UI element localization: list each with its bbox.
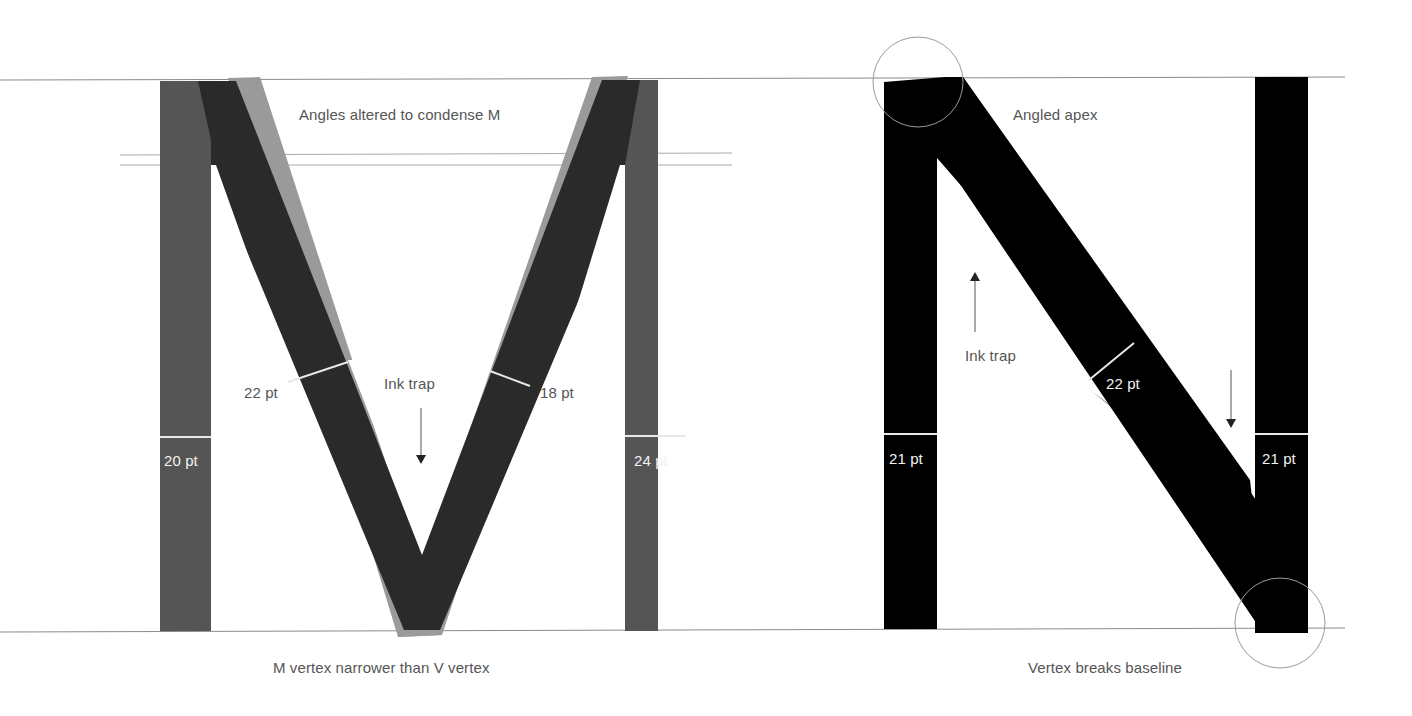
diagram-canvas [0,0,1412,716]
m-right-stem-measure: 24 pt [634,452,668,469]
n-right-stem-measure: 21 pt [1262,450,1296,467]
n-left-stem-measure: 21 pt [889,450,923,467]
n-ink-trap-annotation: Ink trap [965,347,1016,364]
m-right-stem [625,80,658,631]
letter-m [160,76,686,637]
n-vertex-annotation: Vertex breaks baseline [1028,659,1182,676]
n-ink-trap-arrow-up-icon [970,272,980,281]
m-right-diagonal-measure: 18 pt [540,384,574,401]
m-left-stem-measure: 20 pt [164,452,198,469]
n-apex-annotation: Angled apex [1013,106,1098,123]
n-right-stem [1255,77,1308,633]
m-left-diagonal-measure: 22 pt [244,384,278,401]
cap-height-line [0,77,1345,80]
m-ink-trap-annotation: Ink trap [384,375,435,392]
n-down-arrow-head-icon [1226,419,1236,428]
letter-n [873,37,1325,668]
m-vertex-annotation: M vertex narrower than V vertex [273,659,490,676]
n-diagonal-measure: 22 pt [1106,375,1140,392]
m-left-stem [160,81,211,631]
letterform-diagram: Angles altered to condense M Ink trap 22… [0,0,1412,716]
m-angles-annotation: Angles altered to condense M [299,106,500,123]
